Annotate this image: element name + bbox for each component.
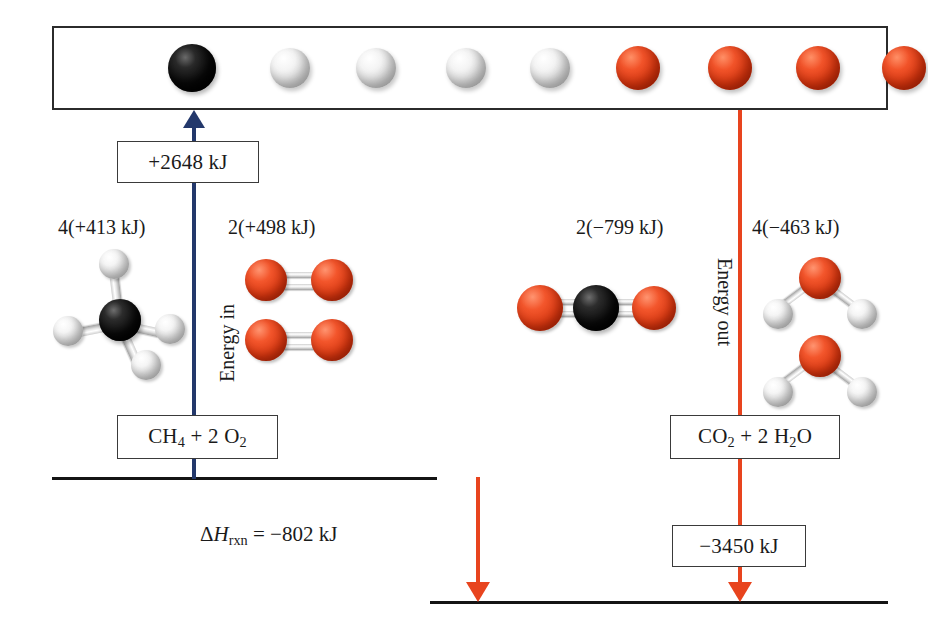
delta-h-label: ΔHrxn = −802 kJ (200, 522, 337, 549)
products-energy-baseline (430, 601, 888, 604)
water-1-oxygen (799, 257, 841, 299)
oxygen-atom-1a (245, 259, 287, 301)
reactants-formula-box: CH4 + 2 O2 (117, 415, 278, 459)
oo-bond-energy-label: 2(+498 kJ) (228, 216, 315, 239)
atom-row (54, 28, 886, 108)
atom-hydrogen-4 (530, 48, 570, 88)
energy-diagram-figure: +2648 kJ CH4 + 2 O2 CO2 + 2 H2O −3450 kJ… (0, 0, 928, 636)
delta-h-text: ΔHrxn = −802 kJ (200, 522, 337, 546)
gaseous-atoms-box (52, 26, 888, 110)
energy-out-axis-label: Energy out (713, 258, 736, 346)
atom-hydrogen-3 (446, 48, 486, 88)
water-2-hydrogen-left (763, 377, 793, 407)
energy-out-arrow-mid-shaft (738, 459, 742, 527)
oxygen-atom-2b (311, 319, 353, 361)
water-molecule-2 (756, 330, 886, 400)
atom-oxygen-3 (796, 46, 840, 90)
energy-in-value-box: +2648 kJ (117, 141, 259, 183)
energy-out-arrow-upper-shaft (738, 110, 742, 417)
co2-carbon (573, 285, 619, 331)
energy-in-axis-label: Energy in (216, 304, 239, 382)
co2-oxygen-left (517, 285, 563, 331)
co-bond-energy-label: 2(−799 kJ) (576, 216, 663, 239)
atom-oxygen-1 (616, 46, 660, 90)
water-1-hydrogen-left (763, 299, 793, 329)
methane-molecule (50, 245, 200, 375)
water-1-hydrogen-right (847, 299, 877, 329)
methane-hydrogen-right (155, 314, 185, 344)
ch-bond-energy-label: 4(+413 kJ) (58, 216, 145, 239)
oxygen-molecule-1 (240, 252, 360, 306)
energy-in-arrowhead (183, 110, 205, 128)
carbon-dioxide-molecule (514, 275, 714, 345)
methane-hydrogen-left (53, 316, 83, 346)
atom-carbon-1 (168, 44, 216, 92)
methane-carbon (99, 299, 141, 341)
oh-bond-energy-label: 4(−463 kJ) (752, 216, 839, 239)
atom-oxygen-4 (882, 46, 926, 90)
atom-oxygen-2 (708, 46, 752, 90)
energy-out-value-box: −3450 kJ (672, 525, 806, 567)
water-molecule-1 (756, 252, 886, 322)
products-formula-box: CO2 + 2 H2O (670, 415, 840, 459)
reactants-energy-baseline (52, 477, 437, 480)
atom-hydrogen-2 (356, 48, 396, 88)
reactants-formula-text: CH4 + 2 O2 (148, 424, 247, 451)
delta-h-arrowhead (466, 582, 490, 602)
oxygen-atom-1b (311, 259, 353, 301)
water-2-oxygen (799, 335, 841, 377)
methane-hydrogen-top (99, 249, 129, 279)
products-formula-text: CO2 + 2 H2O (698, 424, 812, 451)
methane-hydrogen-bottom (131, 350, 161, 380)
delta-h-arrow-shaft (476, 477, 480, 583)
oxygen-molecule-2 (240, 312, 360, 366)
energy-out-arrowhead (728, 582, 752, 602)
water-2-hydrogen-right (847, 377, 877, 407)
co2-oxygen-right (632, 286, 676, 330)
atom-hydrogen-1 (270, 48, 310, 88)
oxygen-atom-2a (245, 319, 287, 361)
